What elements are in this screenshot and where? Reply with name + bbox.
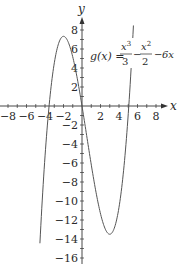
y-tick-label: −14 (55, 233, 78, 246)
y-tick-label: −10 (55, 195, 78, 208)
svg-text:g(x) =: g(x) = (90, 50, 125, 63)
x-tick-label: 4 (116, 110, 123, 123)
y-tick-label: −8 (62, 176, 78, 189)
x-tick-labels: −8−6−4−22468 (0, 110, 160, 123)
y-tick-labels: 8642−2−4−6−8−10−12−14−16 (55, 24, 78, 264)
y-axis-arrow-icon (80, 17, 85, 24)
y-tick-label: 8 (71, 24, 78, 37)
eq-term1-exp: 3 (127, 40, 131, 48)
function-graph: x y −8−6−4−22468 8642−2−4−6−8−10−12−14−1… (0, 0, 178, 264)
x-tick-label: 6 (134, 110, 141, 123)
y-tick-label: −12 (55, 214, 78, 227)
y-tick-label: −6 (62, 157, 78, 170)
eq-term2-exp: 2 (147, 40, 151, 48)
x-axis-arrow-icon (161, 104, 168, 109)
y-tick-label: −2 (62, 119, 78, 132)
x-axis-label: x (170, 99, 177, 113)
eq-term1-den: 3 (122, 56, 128, 67)
y-axis-label: y (77, 2, 85, 16)
y-tick-label: 2 (71, 81, 78, 94)
x-tick-label: −6 (18, 110, 34, 123)
y-tick-label: −16 (55, 252, 78, 264)
x-tick-label: −4 (37, 110, 53, 123)
eq-lhs: g(x) = (90, 50, 125, 63)
x-tick-label: 8 (153, 110, 160, 123)
eq-term3: 6x (162, 49, 174, 60)
x-tick-label: 2 (97, 110, 104, 123)
eq-term2-den: 2 (142, 56, 148, 67)
x-tick-label: −8 (0, 110, 16, 123)
y-tick-label: −4 (62, 138, 78, 151)
